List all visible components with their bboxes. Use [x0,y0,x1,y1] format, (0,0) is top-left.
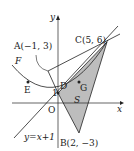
point-E [27,81,30,84]
label-O: O [48,105,55,115]
label-A: A(−1, 3) [13,41,52,51]
label-x: x [117,104,122,114]
label-D: D [60,81,67,91]
diagram: y x O A(−1, 3) C(5, 6) B(2, −3) D E G 1 … [0,0,134,151]
leader-A [36,55,48,71]
label-E: E [24,85,31,95]
label-F: F [14,56,22,66]
label-y: y [49,12,56,22]
label-S: S [74,95,80,105]
label-1: 1 [52,88,58,98]
label-B: B(2, −3) [60,138,98,148]
y-axis-arrow [56,15,60,20]
label-G: G [80,83,87,93]
label-line-eq: y=x+1 [23,132,55,142]
label-C: C(5, 6) [75,35,106,45]
